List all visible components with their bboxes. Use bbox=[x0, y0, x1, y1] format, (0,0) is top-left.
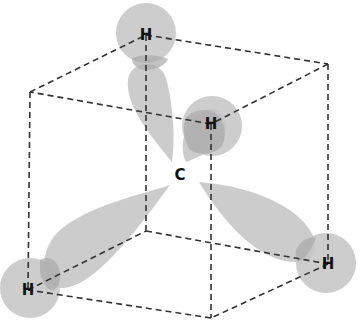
atom-label-h-right: H bbox=[322, 257, 335, 272]
edge-top-right-front bbox=[211, 64, 328, 124]
atom-label-h-top: H bbox=[140, 28, 153, 43]
lobe-left bbox=[44, 185, 170, 288]
atom-label-carbon: C bbox=[174, 168, 185, 183]
methane-diagram: C H H H H bbox=[0, 0, 360, 330]
atom-label-h-front: H bbox=[205, 117, 218, 132]
atom-label-h-left: H bbox=[22, 283, 35, 298]
